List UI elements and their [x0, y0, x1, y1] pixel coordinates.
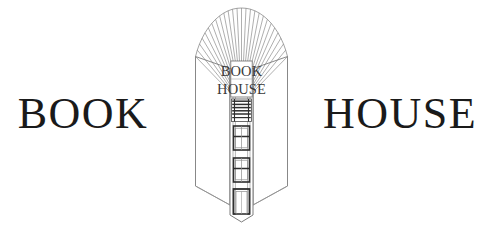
window-row-2	[234, 158, 250, 182]
logo-canvas: BOOK	[0, 0, 483, 227]
wordmark-house-text: HOUSE	[323, 92, 477, 136]
sign-text-house: HOUSE	[217, 81, 266, 97]
entrance-door	[234, 189, 250, 214]
open-book-building-emblem: BOOK HOUSE	[162, 0, 321, 227]
sign-text-book: BOOK	[221, 63, 263, 79]
cornice-band	[232, 99, 252, 122]
window-row-1	[234, 126, 250, 150]
wordmark-house: HOUSE	[311, 0, 483, 227]
wordmark-book: BOOK	[0, 0, 172, 227]
wordmark-book-text: BOOK	[18, 92, 149, 136]
